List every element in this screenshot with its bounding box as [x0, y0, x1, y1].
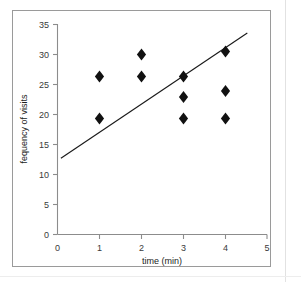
data-marker: [221, 46, 230, 58]
y-tick-label-35: 35: [39, 20, 49, 30]
data-marker: [137, 71, 146, 83]
data-marker: [179, 113, 188, 125]
x-tick-label-2: 2: [139, 243, 144, 253]
data-marker: [137, 49, 146, 61]
data-marker: [179, 71, 188, 83]
x-tick-label-3: 3: [181, 243, 186, 253]
y-tick-label-20: 20: [39, 110, 49, 120]
y-axis-title: fequency of visits: [19, 94, 29, 164]
y-tick-label-0: 0: [44, 230, 49, 240]
data-marker: [221, 85, 230, 97]
x-tick-label-1: 1: [97, 243, 102, 253]
x-axis-title: time (min): [142, 256, 182, 266]
y-tick-label-15: 15: [39, 140, 49, 150]
page-bottom-divider: [0, 276, 301, 277]
trend-line: [61, 33, 247, 158]
y-tick-label-10: 10: [39, 170, 49, 180]
data-marker: [95, 113, 104, 125]
x-axis-ticks: 0 1 2 3 4 5: [55, 235, 270, 254]
scatter-plot: 35 30 25 20 15 10 5 0 0 1: [13, 11, 270, 266]
data-marker: [95, 71, 104, 83]
data-points-group: [95, 46, 230, 125]
y-tick-label-5: 5: [44, 200, 49, 210]
chart-frame: 35 30 25 20 15 10 5 0 0 1: [12, 10, 271, 267]
data-marker: [221, 113, 230, 125]
page-edge-divider: [285, 0, 286, 282]
figure-root: 35 30 25 20 15 10 5 0 0 1: [0, 0, 301, 282]
x-tick-label-5: 5: [264, 243, 269, 253]
x-tick-label-4: 4: [223, 243, 228, 253]
y-tick-label-30: 30: [39, 50, 49, 60]
y-axis-ticks: 35 30 25 20 15 10 5 0: [39, 20, 58, 240]
data-marker: [179, 91, 188, 103]
y-tick-label-25: 25: [39, 80, 49, 90]
x-tick-label-0: 0: [55, 243, 60, 253]
axes-group: [58, 24, 268, 235]
